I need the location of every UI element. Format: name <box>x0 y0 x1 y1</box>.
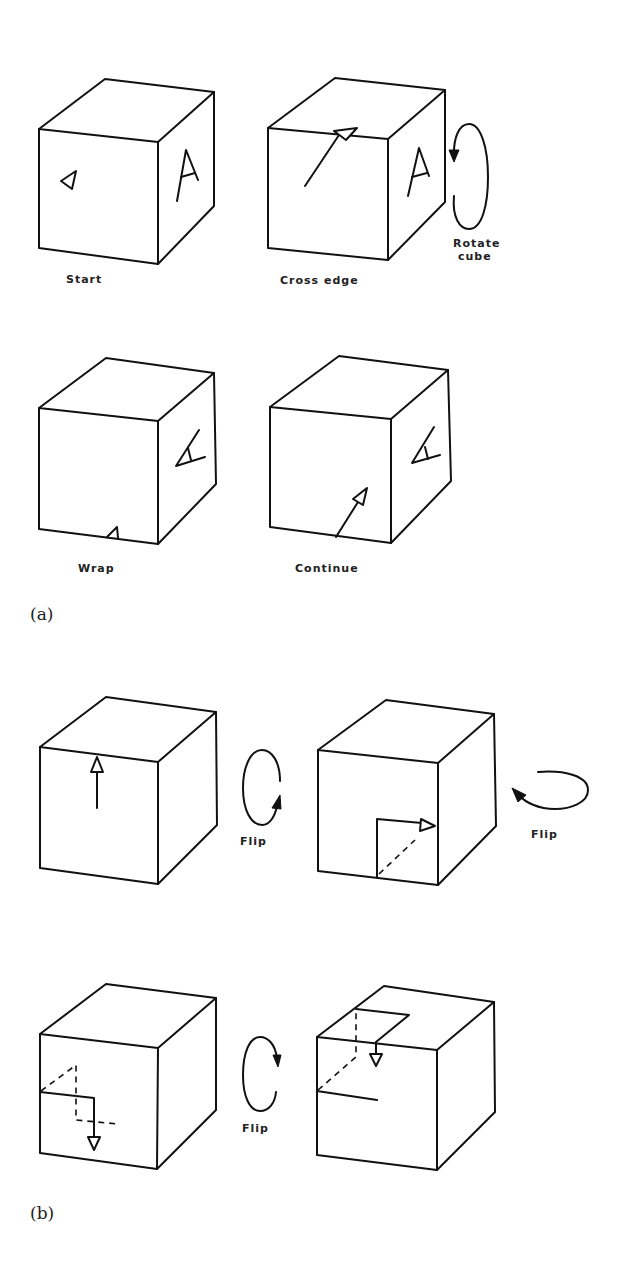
arrow-up-right-icon <box>305 128 357 186</box>
cube-start <box>39 79 214 264</box>
arrow-up-icon <box>91 757 103 808</box>
cube-continue <box>270 356 451 543</box>
cube-b4 <box>317 986 495 1170</box>
path-arrow-right-icon <box>377 819 435 877</box>
cube-diagram-figure: Start Rotate cube Cross edge Wrap <box>0 0 629 1265</box>
path-arrow-down-icon <box>40 1065 118 1150</box>
part-a-label: (a) <box>30 604 53 624</box>
path-arrow-down-icon <box>317 1009 409 1100</box>
caption-continue: Continue <box>295 562 359 575</box>
caption-rotate: Rotate <box>453 237 500 250</box>
letter-a-rotated-glyph <box>412 427 440 463</box>
triangle-marker-icon <box>107 527 118 538</box>
cube-b1 <box>40 697 217 884</box>
letter-a-rotated-glyph <box>176 430 205 466</box>
caption-wrap: Wrap <box>78 562 115 575</box>
letter-a-glyph <box>408 148 429 196</box>
caption-flip-2: Flip <box>531 828 558 841</box>
flip-arrow-icon <box>243 1037 281 1111</box>
cube-b2 <box>318 700 496 885</box>
caption-start: Start <box>66 273 102 286</box>
triangle-marker-icon <box>61 171 76 189</box>
caption-flip-3: Flip <box>242 1122 269 1135</box>
flip-arrow-icon <box>512 772 588 809</box>
flip-arrow-icon <box>243 750 281 825</box>
cube-cross-edge <box>268 78 445 260</box>
arrow-up-right-icon <box>336 488 367 537</box>
caption-flip-1: Flip <box>240 835 267 848</box>
rotate-cube-arrow-icon <box>449 124 488 229</box>
caption-cube: cube <box>458 250 492 263</box>
cube-b3 <box>40 984 216 1169</box>
letter-a-glyph <box>177 150 198 201</box>
caption-cross-edge: Cross edge <box>280 274 359 287</box>
part-b-label: (b) <box>30 1203 54 1223</box>
cube-wrap <box>39 358 216 544</box>
